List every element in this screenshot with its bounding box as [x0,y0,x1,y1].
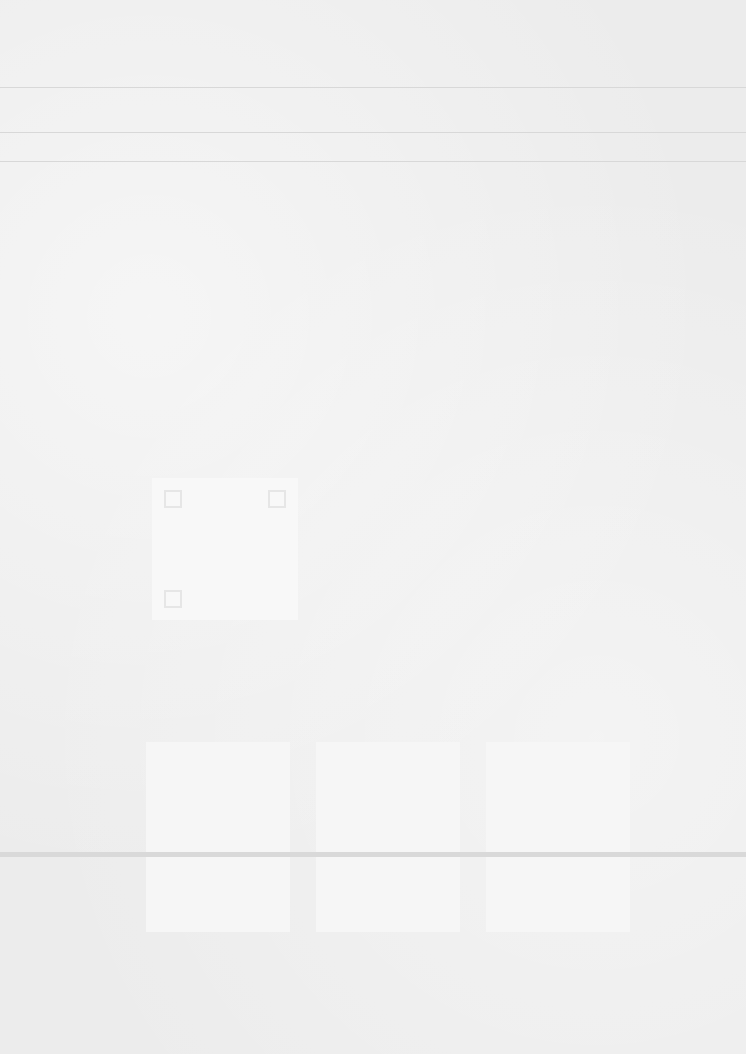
qr-finder [164,490,182,508]
qr-code [152,478,298,620]
panel-left [146,742,290,932]
header-rule [0,87,746,88]
scanned-page [0,0,746,1054]
qr-finder [164,590,182,608]
qr-finder [268,490,286,508]
panel-center [316,742,460,932]
header-rule [0,132,746,133]
fold-line [0,852,746,857]
panel-right [486,742,630,932]
header-rule [0,161,746,162]
